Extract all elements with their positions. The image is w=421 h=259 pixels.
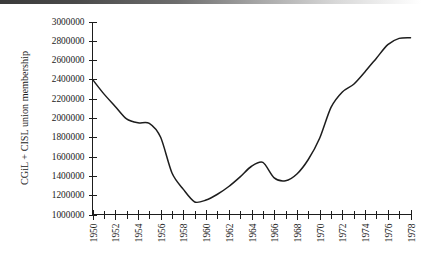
x-tick-label: 1974 <box>361 223 371 242</box>
x-tick-label: 1968 <box>293 223 303 242</box>
union-membership-line-chart: 1000000120000014000001600000180000020000… <box>0 0 421 259</box>
x-tick-label: 1978 <box>407 223 417 242</box>
y-axis-tick-labels: 1000000120000014000001600000180000020000… <box>52 17 85 220</box>
x-tick-label: 1970 <box>316 223 326 242</box>
y-axis-title: CGiL + CISL union membership <box>19 51 30 185</box>
x-tick-label: 1962 <box>225 223 235 242</box>
x-tick-label: 1966 <box>270 223 280 242</box>
y-tick-label: 1800000 <box>52 132 85 142</box>
y-tick-label: 2400000 <box>52 74 85 84</box>
x-tick-label: 1958 <box>179 223 189 242</box>
chart-figure: 1000000120000014000001600000180000020000… <box>0 0 421 259</box>
x-tick-label: 1954 <box>134 223 144 242</box>
x-tick-label: 1964 <box>248 223 258 242</box>
y-tick-label: 2600000 <box>52 55 85 65</box>
x-tick-label: 1952 <box>111 223 121 242</box>
x-tick-label: 1960 <box>202 223 212 242</box>
x-tick-label: 1976 <box>384 223 394 242</box>
y-tick-label: 1600000 <box>52 152 85 162</box>
data-series-line <box>93 38 411 203</box>
chart-axes <box>93 22 411 215</box>
x-tick-label: 1950 <box>89 223 99 242</box>
y-tick-label: 3000000 <box>52 17 85 27</box>
y-tick-label: 1400000 <box>52 171 85 181</box>
y-tick-label: 2200000 <box>52 94 85 104</box>
y-tick-label: 1000000 <box>52 210 85 220</box>
y-tick-label: 2800000 <box>52 36 85 46</box>
x-tick-label: 1956 <box>157 223 167 242</box>
y-tick-label: 1200000 <box>52 190 85 200</box>
x-tick-label: 1972 <box>338 223 348 242</box>
y-tick-label: 2000000 <box>52 113 85 123</box>
x-axis-tick-labels: 1950195219541956195819601962196419661968… <box>89 223 417 242</box>
